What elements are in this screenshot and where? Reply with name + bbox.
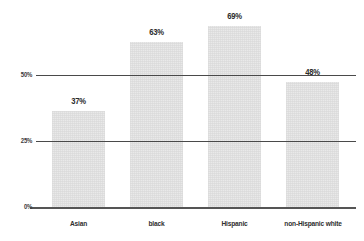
bar-hispanic[interactable] [208, 26, 261, 208]
gridline-25 [36, 141, 356, 142]
y-tick-label-50: 50% [0, 71, 32, 78]
bar-non-hispanic-white[interactable] [286, 82, 339, 208]
y-tick-label-0: 0% [0, 203, 32, 210]
value-label-hispanic: 69% [212, 11, 257, 21]
x-tick-label-black: black [133, 219, 180, 228]
x-tick-label-hispanic: Hispanic [211, 219, 258, 228]
x-tick-label-non-hispanic-white: non-Hispanic white [282, 219, 344, 228]
bar-chart: 50% 25% 0% 37% 63% 69% 48% Asian black H… [0, 0, 364, 241]
value-label-asian: 37% [56, 96, 101, 106]
value-label-black: 63% [134, 27, 179, 37]
bar-black[interactable] [130, 42, 183, 208]
x-tick-label-asian: Asian [55, 219, 102, 228]
y-tick-label-25: 25% [0, 137, 32, 144]
bar-asian[interactable] [52, 111, 105, 208]
plot-area: 50% 25% 0% 37% 63% 69% 48% Asian black H… [0, 0, 364, 241]
value-label-non-hispanic-white: 48% [290, 67, 335, 77]
x-axis-line [30, 207, 356, 209]
